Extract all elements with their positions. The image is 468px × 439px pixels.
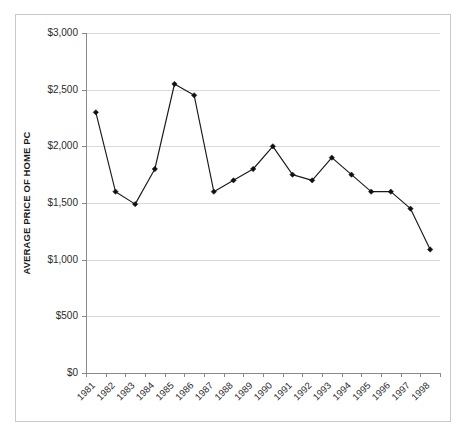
x-axis-tick-label: 1983 <box>114 380 137 403</box>
x-axis-tick-label: 1994 <box>330 380 353 403</box>
x-axis-tick-label: 1993 <box>311 380 334 403</box>
x-axis-tick-label: 1981 <box>75 380 98 403</box>
y-axis-tick-label: $3,000 <box>47 27 78 38</box>
data-point-marker <box>113 189 118 194</box>
x-axis-tick-label: 1987 <box>193 380 216 403</box>
y-axis-tick-label: $2,500 <box>47 84 78 95</box>
y-axis-tick-label: $500 <box>56 310 79 321</box>
x-axis-tick-label: 1984 <box>134 380 157 403</box>
gridlines-group <box>86 34 440 317</box>
x-axis-tick-label: 1986 <box>173 380 196 403</box>
chart-plot-area: $3,000$2,500$2,000$1,500$1,000$500$0 198… <box>0 0 468 439</box>
x-axis-tick-label: 1995 <box>350 380 373 403</box>
x-axis-tick-label: 1990 <box>252 380 275 403</box>
y-axis-tick-label: $2,000 <box>47 140 78 151</box>
x-axis-tick-label: 1989 <box>232 380 255 403</box>
data-point-marker <box>172 81 177 86</box>
y-axis-tick-label: $1,000 <box>47 254 78 265</box>
x-axis-tick-label: 1985 <box>153 380 176 403</box>
x-axis-tick-labels: 1981198219831984198519861987198819891990… <box>75 380 432 403</box>
data-point-marker <box>152 166 157 171</box>
x-axis-tick-label: 1992 <box>291 380 314 403</box>
x-axis-tick-label: 1997 <box>389 380 412 403</box>
x-axis-tick-label: 1996 <box>370 380 393 403</box>
series-polyline <box>96 84 430 249</box>
y-axis-tick-label: $0 <box>67 367 79 378</box>
x-axis-tick-label: 1998 <box>409 380 432 403</box>
x-axis-tick-label: 1982 <box>94 380 117 403</box>
data-series-line <box>96 84 430 249</box>
data-point-marker <box>93 110 98 115</box>
data-point-marker <box>231 178 236 183</box>
x-axis-tick-label: 1988 <box>212 380 235 403</box>
y-axis-tick-label: $1,500 <box>47 197 78 208</box>
data-point-marker <box>191 93 196 98</box>
data-point-markers <box>93 81 433 252</box>
data-point-marker <box>211 189 216 194</box>
data-point-marker <box>427 247 432 252</box>
x-axis-tick-label: 1991 <box>271 380 294 403</box>
chart-figure: AVERAGE PRICE OF HOME PC $3,000$2,500$2,… <box>0 0 468 439</box>
data-point-marker <box>132 201 137 206</box>
y-axis-tick-labels: $3,000$2,500$2,000$1,500$1,000$500$0 <box>47 27 78 378</box>
